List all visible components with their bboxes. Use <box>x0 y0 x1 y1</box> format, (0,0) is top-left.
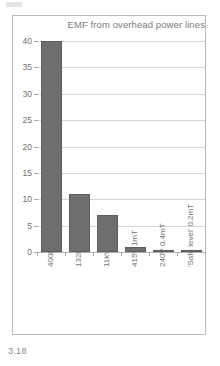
y-tick-mark <box>34 147 38 148</box>
y-tick-label: 10 <box>6 194 32 204</box>
y-tick-mark <box>34 199 38 200</box>
x-tick-label: 415V 1mT <box>130 230 139 267</box>
bars-layer <box>37 41 205 252</box>
x-tick-label: 'Safe level' 0.2mT <box>186 204 195 267</box>
y-tick-label: 0 <box>6 247 32 257</box>
y-tick-mark <box>34 41 38 42</box>
y-tick-mark <box>34 226 38 227</box>
x-tick-mark <box>37 252 38 256</box>
y-tick-mark <box>34 173 38 174</box>
x-tick-mark <box>177 252 178 256</box>
x-tick-label: 132kV 11mT <box>74 222 83 267</box>
y-tick-mark <box>34 67 38 68</box>
y-tick-label: 25 <box>6 115 32 125</box>
bar <box>41 41 62 252</box>
y-tick-label: 20 <box>6 142 32 152</box>
x-tick-mark <box>121 252 122 256</box>
x-tick-mark <box>149 252 150 256</box>
x-tick-mark <box>93 252 94 256</box>
plot-area <box>37 41 205 252</box>
figure-caption: 3.18 <box>8 346 27 356</box>
x-tick-mark <box>205 252 206 256</box>
x-tick-mark <box>65 252 66 256</box>
y-tick-label: 30 <box>6 89 32 99</box>
y-tick-label: 15 <box>6 168 32 178</box>
figure-root: EMF from overhead power lines 0510152025… <box>0 0 220 366</box>
x-tick-label: 11kV 7mT <box>102 231 111 267</box>
chart-title: EMF from overhead power lines <box>60 19 205 30</box>
y-tick-mark <box>34 94 38 95</box>
y-tick-label: 40 <box>6 36 32 46</box>
y-tick-label: 5 <box>6 221 32 231</box>
page-corner-mark <box>6 2 22 7</box>
y-tick-mark <box>34 120 38 121</box>
y-tick-label: 35 <box>6 62 32 72</box>
x-tick-label: 400kV 40mT <box>46 222 55 267</box>
x-tick-label: 240V 0.4mT <box>158 223 167 267</box>
